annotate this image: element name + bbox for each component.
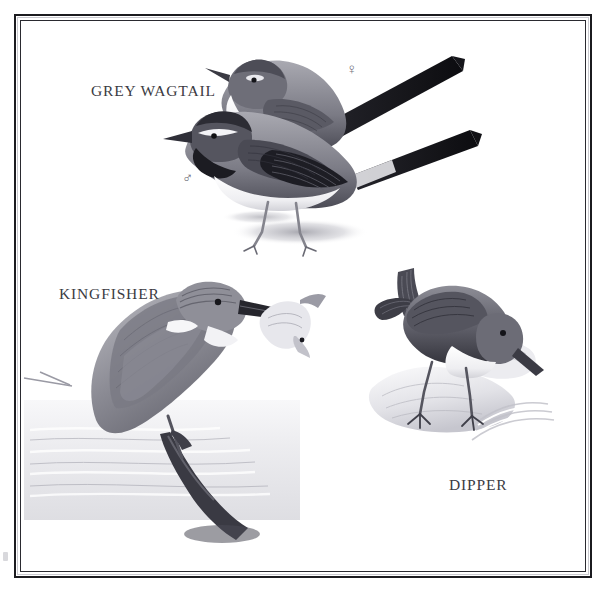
female-symbol-icon: ♀ — [346, 62, 357, 77]
scan-artifact-mark — [3, 552, 8, 561]
bird-plate: GREY WAGTAIL KINGFISHER DIPPER ♀ ♂ — [0, 0, 606, 599]
label-dipper: DIPPER — [449, 477, 508, 493]
label-kingfisher: KINGFISHER — [59, 286, 160, 302]
label-grey-wagtail: GREY WAGTAIL — [91, 83, 216, 99]
male-symbol-icon: ♂ — [182, 171, 193, 186]
